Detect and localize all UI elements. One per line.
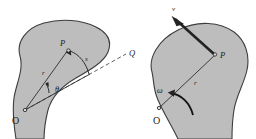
right-angular-velocity-label: ω (157, 86, 163, 95)
right-radius-label: r (194, 79, 197, 87)
origin-point-marker-right (157, 106, 160, 109)
right-diagram-group: O P r v ω (151, 5, 248, 139)
left-point-p-label: P (59, 38, 65, 48)
right-point-p-label: P (219, 50, 225, 60)
left-diagram-group: O P r θ s Q (12, 20, 135, 139)
physics-figure: O P r θ s Q O P r (0, 0, 256, 139)
left-reference-point-q-label: Q (129, 48, 135, 58)
right-origin-label: O (153, 115, 160, 126)
left-origin-label: O (12, 115, 19, 126)
right-velocity-label: v (172, 5, 176, 13)
left-angle-theta-label: θ (55, 85, 59, 94)
point-p-marker-right (213, 53, 216, 56)
figure-canvas: O P r θ s Q O P r (0, 0, 256, 139)
left-arc-length-label: s (85, 55, 88, 63)
point-p-marker-left (67, 49, 70, 52)
origin-point-marker-left (23, 108, 26, 111)
left-radius-label: r (42, 69, 45, 77)
